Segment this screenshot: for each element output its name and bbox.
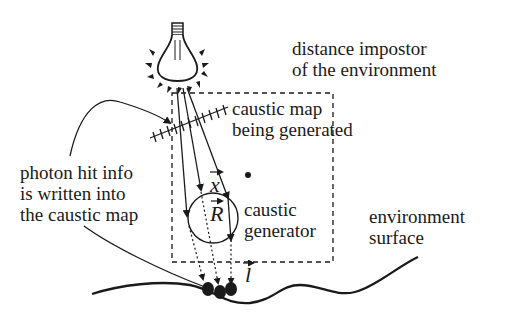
label-photon-3: the caustic map: [20, 204, 138, 225]
label-generator-2: generator: [244, 220, 316, 241]
caustic-diagram: distance impostor of the environment cau…: [0, 0, 509, 318]
label-caustic-map-1: caustic map: [232, 98, 322, 119]
callout-arrow-caustic-map: [70, 100, 170, 156]
diagram-graphics: [0, 0, 509, 318]
label-surface-2: surface: [369, 227, 424, 248]
light-bulb-icon: [145, 23, 209, 94]
label-impostor-1: distance impostor: [292, 38, 427, 59]
label-photon-1: photon hit info: [20, 162, 133, 183]
symbol-l: l: [245, 264, 251, 286]
callout-line-hits: [84, 226, 205, 287]
label-caustic-map-2: being generated: [232, 119, 353, 140]
label-generator-1: caustic: [244, 199, 297, 220]
center-point: [245, 172, 251, 178]
environment-surface: [92, 257, 418, 303]
symbol-R: R: [210, 203, 223, 225]
label-surface-1: environment: [369, 206, 465, 227]
symbol-x: x: [210, 174, 220, 196]
label-impostor-2: of the environment: [292, 59, 437, 80]
label-photon-2: is written into: [20, 183, 126, 204]
